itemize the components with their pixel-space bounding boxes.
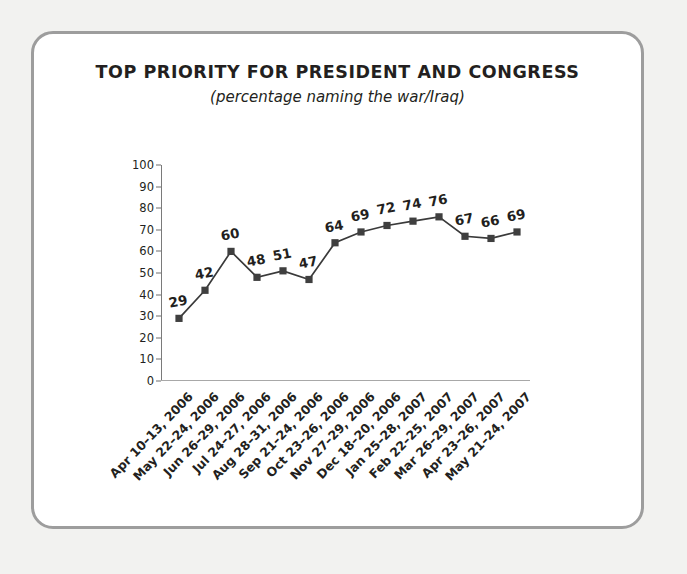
data-point-label: 64 <box>323 216 345 235</box>
y-axis-tick-label: 70 <box>139 223 154 237</box>
data-point-marker <box>357 228 364 235</box>
y-axis-tick-label: 0 <box>147 374 154 388</box>
data-point-marker <box>253 274 260 281</box>
data-point-marker <box>331 239 338 246</box>
data-point-marker <box>279 267 286 274</box>
data-point-marker <box>201 287 208 294</box>
data-point-label: 76 <box>427 190 449 209</box>
y-axis-tick-label: 50 <box>139 266 154 280</box>
y-axis-tick-label: 90 <box>139 180 154 194</box>
y-axis-tick-label: 40 <box>139 288 154 302</box>
data-point-marker <box>461 233 468 240</box>
y-axis-tick-label: 20 <box>139 331 154 345</box>
chart-card: TOP PRIORITY FOR PRESIDENT AND CONGRESS … <box>31 31 644 529</box>
y-axis-tick-label: 10 <box>139 352 154 366</box>
data-point-marker <box>487 235 494 242</box>
data-point-marker <box>409 218 416 225</box>
data-point-marker <box>513 228 520 235</box>
chart-title: TOP PRIORITY FOR PRESIDENT AND CONGRESS <box>34 62 641 82</box>
data-point-marker <box>305 276 312 283</box>
chart-subtitle: (percentage naming the war/Iraq) <box>34 88 641 106</box>
line-series <box>161 165 541 381</box>
data-point-marker <box>383 222 390 229</box>
y-axis-tick-label: 100 <box>132 158 154 172</box>
data-point-marker <box>435 213 442 220</box>
data-point-label: 51 <box>271 244 293 263</box>
data-point-marker <box>175 315 182 322</box>
y-axis-tick-label: 30 <box>139 309 154 323</box>
y-axis-tick-label: 60 <box>139 244 154 258</box>
plot-area: 0102030405060708090100 29426048514764697… <box>161 165 501 381</box>
data-point-marker <box>227 248 234 255</box>
y-axis-tick-label: 80 <box>139 201 154 215</box>
